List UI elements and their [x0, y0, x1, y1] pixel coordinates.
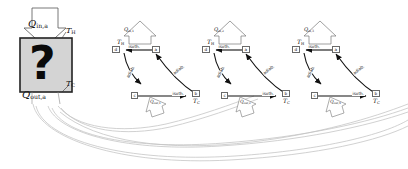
cycle-2-adiabatic-right	[246, 54, 286, 94]
cycle-2-heat-out-arrow	[236, 97, 256, 117]
return-curve-bundle	[33, 96, 408, 161]
return-curve-3	[48, 106, 408, 147]
cycle-1-heat-in-arrow	[124, 21, 156, 44]
cycle-1-group	[124, 21, 196, 117]
cycle-1-adiabatic-left	[124, 53, 141, 84]
unknown-question-mark: ?	[29, 40, 56, 86]
cycle-2-heat-in-arrow	[214, 21, 246, 44]
cycle-2-group	[214, 21, 286, 117]
out-leader-b	[58, 92, 60, 104]
cycle-3-heat-in-arrow	[304, 21, 336, 44]
cycle-3-heat-out-arrow	[326, 97, 346, 117]
figure-canvas: ? Qin,a Qout,a TH TC Qin,1 TH d a isoth.…	[0, 0, 408, 169]
cycle-3-adiabatic-left	[304, 53, 321, 84]
return-curve-2	[36, 106, 408, 157]
cycle-2-adiabatic-left	[214, 53, 231, 84]
cycle-3-group	[304, 21, 376, 117]
cycle-3-adiabatic-right	[336, 54, 376, 94]
temp-hot-leader	[62, 32, 66, 38]
cycle-1-adiabatic-right	[156, 54, 196, 94]
diagram-vector-layer	[0, 0, 408, 169]
cycle-1-heat-out-arrow	[146, 97, 166, 117]
